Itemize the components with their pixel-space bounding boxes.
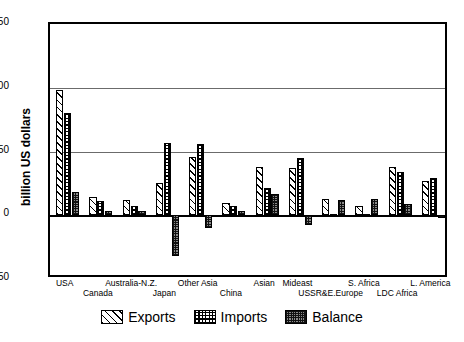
legend-label: Imports <box>221 310 268 324</box>
y-tick-label: 100 <box>0 81 9 91</box>
bar-balance-other-asia <box>205 215 212 228</box>
y-tick-label: -50 <box>0 272 9 282</box>
legend-swatch-exports-icon <box>101 310 123 324</box>
chart-legend: ExportsImportsBalance <box>0 310 464 324</box>
bar-balance-s-africa <box>371 199 378 216</box>
bar-balance-japan <box>172 215 179 256</box>
y-tick-label: 0 <box>0 208 9 218</box>
x-label-japan: Japan <box>153 289 176 298</box>
bar-imports-asian <box>264 188 271 215</box>
bar-balance-asian <box>271 194 278 216</box>
plot-area <box>48 22 447 277</box>
x-label-other-asia: Other Asia <box>178 279 218 288</box>
x-label-ussr-e-europe: USSR&E.Europe <box>298 289 363 298</box>
legend-item-exports[interactable]: Exports <box>101 310 175 324</box>
bar-imports-ldc-africa <box>397 172 404 215</box>
x-axis-category-labels: USACanadaAustralia-N.Z.JapanOther AsiaCh… <box>48 279 447 305</box>
bar-imports-s-africa <box>363 214 370 216</box>
bar-imports-other-asia <box>197 144 204 215</box>
bar-exports-china <box>222 203 229 216</box>
bar-imports-australia-n-z <box>131 206 138 215</box>
x-label-l-america: L. America <box>410 279 450 288</box>
x-label-usa: USA <box>56 279 73 288</box>
bar-balance-canada <box>105 211 112 215</box>
bar-exports-usa <box>56 90 63 215</box>
bar-imports-china <box>230 206 237 215</box>
bar-exports-s-africa <box>355 206 362 215</box>
bar-balance-l-america <box>438 215 445 218</box>
bar-exports-japan <box>156 183 163 215</box>
x-label-asian: Asian <box>253 279 274 288</box>
bar-balance-usa <box>72 192 79 215</box>
bar-imports-l-america <box>430 178 437 215</box>
legend-item-balance[interactable]: Balance <box>285 310 363 324</box>
bar-exports-asian <box>256 167 263 215</box>
bar-imports-usa <box>64 113 71 215</box>
x-label-australia-n-z: Australia-N.Z. <box>105 279 157 288</box>
x-label-mideast: Mideast <box>282 279 312 288</box>
bar-chart: billion US dollars -50050100150 USACanad… <box>0 0 464 342</box>
legend-swatch-imports-icon <box>194 310 216 324</box>
bar-exports-ussr-e-europe <box>322 199 329 216</box>
y-tick-label: 150 <box>0 17 9 27</box>
x-label-china: China <box>220 289 242 298</box>
x-label-s-africa: S. Africa <box>348 279 380 288</box>
bar-balance-china <box>238 211 245 215</box>
bar-exports-australia-n-z <box>123 200 130 215</box>
bar-exports-mideast <box>289 168 296 215</box>
bar-imports-ussr-e-europe <box>330 214 337 216</box>
bar-exports-canada <box>89 197 96 215</box>
bar-exports-ldc-africa <box>389 167 396 215</box>
bar-balance-ldc-africa <box>404 204 411 215</box>
bar-imports-canada <box>97 201 104 215</box>
legend-label: Exports <box>128 310 175 324</box>
y-axis-title: billion US dollars <box>19 87 33 227</box>
legend-label: Balance <box>312 310 363 324</box>
y-tick-label: 50 <box>0 145 9 155</box>
x-label-canada: Canada <box>83 289 113 298</box>
bar-exports-l-america <box>422 181 429 215</box>
bar-balance-australia-n-z <box>138 211 145 215</box>
bar-exports-other-asia <box>189 157 196 216</box>
legend-swatch-balance-icon <box>285 310 307 324</box>
x-label-ldc-africa: LDC Africa <box>377 289 418 298</box>
bar-imports-japan <box>164 143 171 216</box>
bar-balance-ussr-e-europe <box>338 200 345 215</box>
legend-item-imports[interactable]: Imports <box>194 310 268 324</box>
bar-imports-mideast <box>297 158 304 215</box>
bar-series-container <box>50 24 445 275</box>
bar-balance-mideast <box>305 215 312 225</box>
